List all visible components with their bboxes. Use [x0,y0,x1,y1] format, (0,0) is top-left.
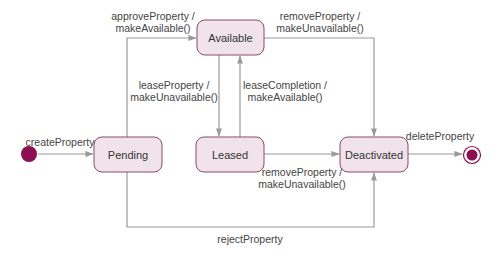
state-available[interactable]: Available [197,20,264,55]
state-leased[interactable]: Leased [196,137,264,172]
label-approve-line2: makeAvailable() [115,22,190,34]
label-lease-line1: leaseProperty / [139,79,210,91]
final-state-icon [464,147,481,164]
label-approve-line1: approveProperty / [111,10,195,22]
label-remove-leased-line1: removeProperty / [262,166,343,178]
state-label-leased: Leased [212,149,248,161]
state-diagram: Available Pending Leased Deactivated cre… [0,0,498,253]
label-remove-available-line1: removeProperty / [280,10,361,22]
state-label-deactivated: Deactivated [345,149,403,161]
label-reject-property: rejectProperty [217,233,283,245]
label-lease-completion-line2: makeAvailable() [247,91,322,103]
state-deactivated[interactable]: Deactivated [340,137,408,172]
label-remove-leased-line2: makeUnavailable() [258,178,346,190]
label-lease-line2: makeUnavailable() [130,91,218,103]
state-pending[interactable]: Pending [94,137,162,172]
label-create-property: createProperty [26,136,96,148]
label-delete-property: deleteProperty [406,130,475,142]
state-label-pending: Pending [108,149,148,161]
state-label-available: Available [208,32,252,44]
initial-state-icon [21,146,37,162]
label-remove-available-line2: makeUnavailable() [276,22,364,34]
label-lease-completion-line1: leaseCompletion / [243,79,327,91]
